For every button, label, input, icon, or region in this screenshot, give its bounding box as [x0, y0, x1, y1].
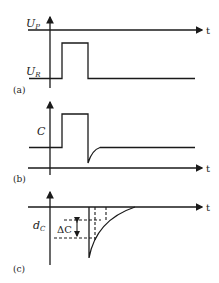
caption-c: (c)	[13, 264, 25, 274]
transient-curve	[89, 207, 135, 258]
svg-text:UP: UP	[26, 17, 40, 31]
t-label: t	[206, 163, 210, 174]
delta-c-label: ΔC	[57, 224, 72, 235]
capacitance-signal	[29, 114, 195, 163]
t-label: t	[206, 202, 210, 213]
panel-a: UP UR t (a)	[13, 17, 210, 95]
panel-b: C t (b)	[13, 102, 210, 184]
caption-a: (a)	[13, 85, 25, 95]
svg-text:dC: dC	[33, 219, 46, 233]
caption-b: (b)	[13, 174, 26, 184]
diagram-canvas: UP UR t (a) C t (b) ΔC dC t (c)	[0, 0, 219, 283]
dc-label: d	[33, 219, 40, 232]
panel-c: ΔC dC t (c)	[13, 192, 210, 274]
pulse-signal	[29, 43, 195, 79]
svg-text:UR: UR	[26, 65, 41, 79]
t-label: t	[206, 25, 210, 36]
c-label: C	[37, 125, 46, 138]
